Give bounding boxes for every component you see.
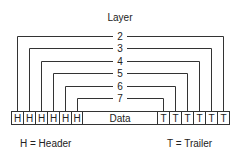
svg-text:H: H	[26, 113, 33, 124]
layer-number: 3	[117, 43, 123, 54]
header-box: H	[72, 112, 83, 125]
svg-text:T: T	[220, 113, 226, 124]
legend-header: H = Header	[20, 138, 72, 149]
svg-text:T: T	[184, 113, 190, 124]
layer-number: 4	[117, 56, 123, 67]
svg-text:T: T	[172, 113, 178, 124]
header-box: H	[36, 112, 48, 125]
trailer-box: T	[170, 112, 182, 125]
layer-number: 5	[117, 68, 123, 79]
trailer-box: T	[206, 112, 218, 125]
trailer-box: T	[218, 112, 230, 125]
trailer-box: T	[194, 112, 206, 125]
header-box: H	[12, 112, 24, 125]
header-box: H	[60, 112, 72, 125]
layer-encapsulation-diagram: Layer 2 3 4 5 6 7 H	[0, 0, 240, 156]
svg-text:H: H	[14, 113, 21, 124]
svg-text:T: T	[160, 113, 166, 124]
legend-trailer: T = Trailer	[167, 138, 213, 149]
svg-text:H: H	[73, 113, 80, 124]
svg-text:T: T	[208, 113, 214, 124]
trailer-box: T	[158, 112, 170, 125]
svg-text:T: T	[196, 113, 202, 124]
svg-text:H: H	[62, 113, 69, 124]
diagram-title: Layer	[107, 12, 133, 23]
data-box: Data	[83, 112, 158, 125]
svg-text:H: H	[38, 113, 45, 124]
packet-row: H H H H H H Data T	[12, 112, 230, 125]
trailer-box: T	[182, 112, 194, 125]
layer-number: 6	[117, 81, 123, 92]
layer-number: 7	[117, 93, 123, 104]
header-box: H	[24, 112, 36, 125]
svg-text:Data: Data	[109, 113, 131, 124]
svg-text:H: H	[50, 113, 57, 124]
layer-bracket-7: 7	[78, 93, 164, 112]
layer-number: 2	[117, 31, 123, 42]
header-box: H	[48, 112, 60, 125]
